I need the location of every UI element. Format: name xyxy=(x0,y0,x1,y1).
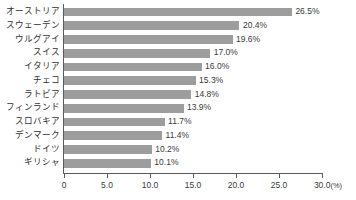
bar xyxy=(64,159,151,168)
bar-row: フィンランド13.9% xyxy=(0,101,356,115)
category-label: デンマーク xyxy=(0,129,60,143)
bar-value-label: 20.4% xyxy=(243,19,267,33)
bar-chart: オーストリア26.5%スウェーデン20.4%ウルグアイ19.6%スイス17.0%… xyxy=(0,0,356,200)
category-label: ウルグアイ xyxy=(0,33,60,47)
bar-value-label: 15.3% xyxy=(199,74,223,88)
bar-row: ウルグアイ19.6% xyxy=(0,33,356,47)
category-label: フィンランド xyxy=(0,101,60,115)
bar-value-label: 26.5% xyxy=(295,5,319,19)
bar-row: スロバキア11.7% xyxy=(0,115,356,129)
bar-value-label: 10.1% xyxy=(154,156,178,170)
bar xyxy=(64,21,239,30)
category-label: オーストリア xyxy=(0,5,60,19)
bar xyxy=(64,90,191,99)
category-label: スウェーデン xyxy=(0,19,60,33)
category-label: ギリシャ xyxy=(0,156,60,170)
bar-value-label: 13.9% xyxy=(187,101,211,115)
bar xyxy=(64,49,210,58)
bar xyxy=(64,104,184,113)
category-label: イタリア xyxy=(0,60,60,74)
bar-row: デンマーク11.4% xyxy=(0,129,356,143)
bar-value-label: 11.4% xyxy=(166,129,189,143)
bar-row: オーストリア26.5% xyxy=(0,5,356,19)
bar xyxy=(64,76,196,85)
bar xyxy=(64,63,202,72)
bar-value-label: 19.6% xyxy=(236,33,260,47)
bar-value-label: 10.2% xyxy=(155,143,179,157)
bar-value-label: 11.7% xyxy=(168,115,191,129)
bar-row: ドイツ10.2% xyxy=(0,143,356,157)
bar-row: イタリア16.0% xyxy=(0,60,356,74)
bar-row: ラトビア14.8% xyxy=(0,88,356,102)
category-label: ドイツ xyxy=(0,143,60,157)
bar-value-label: 14.8% xyxy=(195,88,219,102)
bar-rows: オーストリア26.5%スウェーデン20.4%ウルグアイ19.6%スイス17.0%… xyxy=(0,0,356,200)
bar xyxy=(64,8,292,17)
bar-value-label: 16.0% xyxy=(205,60,229,74)
bar-value-label: 17.0% xyxy=(214,46,238,60)
category-label: チェコ xyxy=(0,74,60,88)
bar-row: ギリシャ10.1% xyxy=(0,156,356,170)
bar-row: チェコ15.3% xyxy=(0,74,356,88)
bar xyxy=(64,131,162,140)
bar-row: スイス17.0% xyxy=(0,46,356,60)
category-label: ラトビア xyxy=(0,88,60,102)
bar-row: スウェーデン20.4% xyxy=(0,19,356,33)
bar xyxy=(64,145,152,154)
bar xyxy=(64,35,233,44)
bar xyxy=(64,118,165,127)
category-label: スイス xyxy=(0,46,60,60)
category-label: スロバキア xyxy=(0,115,60,129)
